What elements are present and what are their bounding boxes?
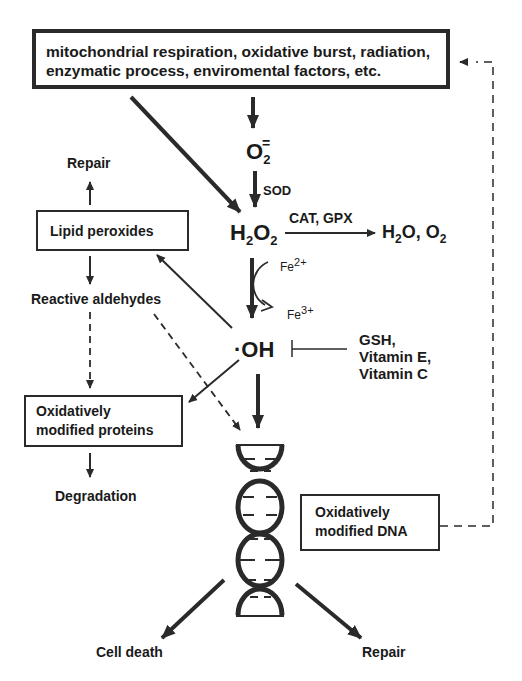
arrow-dna-to-repair bbox=[296, 584, 361, 638]
cell-death-label: Cell death bbox=[96, 644, 163, 660]
lipid-repair-label: Repair bbox=[67, 155, 111, 171]
dna-helix-icon bbox=[236, 445, 284, 616]
sources-line-1: mitochondrial respiration, oxidative bur… bbox=[46, 42, 446, 61]
modified-dna-box: Oxidatively modified DNA bbox=[300, 494, 440, 551]
proteins-line-2: modified proteins bbox=[36, 421, 181, 440]
sources-box: mitochondrial respiration, oxidative bur… bbox=[32, 29, 450, 89]
arrow-dna-to-cell-death bbox=[162, 580, 224, 638]
arrow-source-to-h2o2 bbox=[131, 97, 240, 212]
antioxidant-vitamin-c: Vitamin C bbox=[359, 365, 431, 382]
degradation-label: Degradation bbox=[55, 488, 137, 504]
antioxidants-list: GSH, Vitamin E, Vitamin C bbox=[359, 331, 431, 382]
hydroxyl-radical-label: ·OH bbox=[234, 337, 274, 363]
feedback-dashed-loop bbox=[440, 62, 493, 526]
dna-line-1: Oxidatively bbox=[315, 503, 438, 522]
dna-repair-label: Repair bbox=[362, 644, 406, 660]
reactive-aldehydes-label: Reactive aldehydes bbox=[31, 291, 161, 307]
lipid-peroxides-box: Lipid peroxides bbox=[36, 210, 189, 251]
iron-2-label: Fe2+ bbox=[280, 256, 307, 274]
iron-3-label: Fe3+ bbox=[287, 304, 314, 322]
arrow-hydroxyl-to-lipid bbox=[157, 255, 232, 328]
modified-proteins-box: Oxidatively modified proteins bbox=[24, 395, 183, 447]
h2o2-label: H2O2 bbox=[230, 220, 277, 248]
antioxidant-gsh: GSH, bbox=[359, 331, 431, 348]
superoxide-label: O2= bbox=[246, 139, 270, 167]
lipid-peroxides-label: Lipid peroxides bbox=[50, 223, 153, 239]
water-oxygen-label: H2O, O2 bbox=[382, 222, 446, 246]
sources-line-2: enzymatic process, enviromental factors,… bbox=[46, 61, 446, 80]
proteins-line-1: Oxidatively bbox=[36, 402, 181, 421]
enzyme-sod: SOD bbox=[263, 183, 291, 198]
dna-line-2: modified DNA bbox=[315, 522, 438, 541]
radical-dot: = bbox=[262, 135, 270, 151]
iron-curve-arrowhead bbox=[261, 300, 272, 311]
enzyme-cat-gpx: CAT, GPX bbox=[289, 210, 353, 226]
antioxidant-vitamin-e: Vitamin E, bbox=[359, 348, 431, 365]
iron-redox-curve bbox=[253, 262, 268, 305]
